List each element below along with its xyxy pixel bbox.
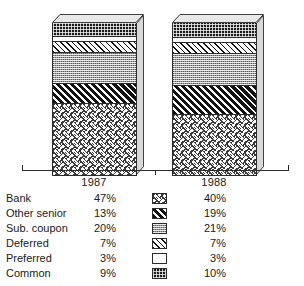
legend-swatch-preferred-icon bbox=[152, 253, 167, 264]
legend-row-other-senior: Other senior 13% 19% bbox=[0, 206, 304, 221]
stacked-bar-chart: 1987 1988 Bank 47% 40% Other senior 13% … bbox=[0, 0, 304, 286]
legend-label-other-senior: Other senior bbox=[6, 206, 67, 221]
bar-front-1987 bbox=[52, 23, 137, 176]
legend-label-bank: Bank bbox=[6, 191, 31, 206]
bar-side-face-1987 bbox=[136, 15, 144, 176]
legend-swatch-deferred-icon bbox=[152, 238, 167, 249]
bar-1987[interactable] bbox=[52, 14, 144, 176]
x-axis-tick-left bbox=[22, 165, 23, 171]
bar-side-face-1988 bbox=[256, 15, 264, 176]
bar-top-face-1987 bbox=[52, 14, 144, 23]
bar-top-face-1988 bbox=[172, 14, 264, 23]
legend-row-sub-coupon: Sub. coupon 20% 21% bbox=[0, 221, 304, 236]
segment-other-senior-1988 bbox=[173, 86, 256, 115]
legend-value-1987-preferred: 3% bbox=[78, 251, 116, 266]
legend-value-1987-bank: 47% bbox=[78, 191, 116, 206]
legend-value-1988-preferred: 3% bbox=[188, 251, 226, 266]
legend-value-1987-deferred: 7% bbox=[78, 236, 116, 251]
x-axis-tick-mid bbox=[155, 170, 156, 175]
segment-bank-1988 bbox=[173, 115, 256, 176]
legend: Bank 47% 40% Other senior 13% 19% Sub. c… bbox=[0, 191, 304, 281]
segment-deferred-1988 bbox=[173, 43, 256, 54]
segment-deferred-1987 bbox=[53, 42, 136, 53]
legend-label-sub-coupon: Sub. coupon bbox=[6, 221, 68, 236]
segment-common-1987 bbox=[53, 23, 136, 37]
segment-sub-coupon-1988 bbox=[173, 54, 256, 86]
plot-area: 1987 1988 bbox=[0, 0, 304, 176]
legend-row-preferred: Preferred 3% 3% bbox=[0, 251, 304, 266]
segment-sub-coupon-1987 bbox=[53, 53, 136, 84]
x-axis-tick-right bbox=[288, 165, 289, 171]
legend-label-common: Common bbox=[6, 266, 51, 281]
legend-swatch-common-icon bbox=[152, 268, 167, 279]
x-axis-label-1988: 1988 bbox=[154, 176, 274, 188]
legend-value-1988-deferred: 7% bbox=[188, 236, 226, 251]
segment-common-1988 bbox=[173, 23, 256, 38]
legend-label-preferred: Preferred bbox=[6, 251, 52, 266]
bar-1988[interactable] bbox=[172, 14, 264, 176]
legend-swatch-sub-coupon-icon bbox=[152, 223, 167, 234]
segment-bank-1987 bbox=[53, 104, 136, 176]
legend-row-bank: Bank 47% 40% bbox=[0, 191, 304, 206]
legend-row-common: Common 9% 10% bbox=[0, 266, 304, 281]
legend-label-deferred: Deferred bbox=[6, 236, 49, 251]
legend-value-1987-other-senior: 13% bbox=[78, 206, 116, 221]
x-axis-label-1987: 1987 bbox=[34, 176, 154, 188]
legend-value-1987-sub-coupon: 20% bbox=[78, 221, 116, 236]
legend-value-1988-bank: 40% bbox=[188, 191, 226, 206]
legend-value-1988-sub-coupon: 21% bbox=[188, 221, 226, 236]
legend-row-deferred: Deferred 7% 7% bbox=[0, 236, 304, 251]
bar-front-1988 bbox=[172, 23, 257, 176]
legend-swatch-bank-icon bbox=[152, 193, 167, 204]
segment-other-senior-1987 bbox=[53, 84, 136, 104]
legend-value-1988-other-senior: 19% bbox=[188, 206, 226, 221]
legend-value-1988-common: 10% bbox=[188, 266, 226, 281]
legend-swatch-other-senior-icon bbox=[152, 208, 167, 219]
legend-value-1987-common: 9% bbox=[78, 266, 116, 281]
